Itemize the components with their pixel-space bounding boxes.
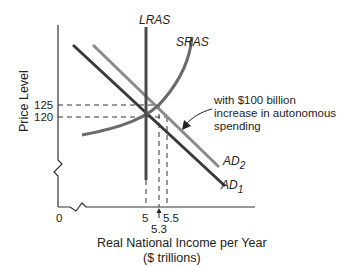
x-tick-5-3: 5.3	[151, 223, 167, 235]
y-tick-125: 125	[34, 99, 53, 111]
ad2-label: AD2	[222, 154, 246, 171]
guide-lines	[58, 105, 167, 207]
ad-as-diagram: LRAS SRAS AD2 AD1 with $100 billion incr…	[0, 0, 337, 267]
y-tick-120: 120	[34, 111, 53, 123]
annotation-line-2: increase in autonomous	[214, 107, 336, 119]
arrowhead-icon	[182, 120, 191, 130]
origin-label: 0	[56, 212, 62, 224]
sras-label: SRAS	[176, 35, 209, 49]
x-axis-label-line-1: Real National Income per Year	[97, 236, 267, 250]
x-tick-5: 5	[142, 212, 148, 224]
annotation-line-1: with $100 billion	[213, 94, 296, 106]
x-axis-label-line-2: ($ trillions)	[143, 251, 201, 265]
x-axis	[58, 203, 255, 211]
y-axis	[54, 25, 62, 207]
y-axis-label: Price Level	[17, 70, 31, 132]
annotation-line-3: spending	[214, 120, 261, 132]
ad1-curve	[73, 45, 225, 186]
annotation-arrow	[186, 109, 212, 124]
lras-label: LRAS	[139, 13, 170, 27]
ad1-label: AD1	[220, 178, 243, 195]
up-arrow-icon	[157, 208, 162, 213]
